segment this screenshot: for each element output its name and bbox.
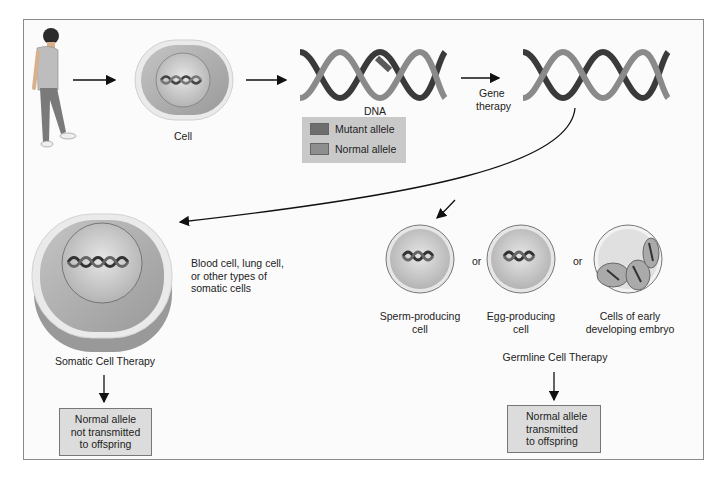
- germline-outcome-line1: Normal allele: [526, 410, 600, 423]
- somatic-title: Somatic Cell Therapy: [40, 355, 170, 368]
- sperm-line2: cell: [375, 323, 465, 336]
- embryo-cells-icon: [594, 225, 662, 293]
- sperm-line1: Sperm-producing: [375, 310, 465, 323]
- sperm-label: Sperm-producing cell: [375, 310, 465, 335]
- somatic-outcome-line2: not transmitted: [60, 426, 151, 439]
- dna-label: DNA: [350, 105, 400, 118]
- legend-label-mutant: Mutant allele: [335, 123, 395, 135]
- somatic-cell-icon: [32, 214, 172, 352]
- germline-outcome-line3: to offspring: [526, 435, 600, 448]
- somatic-outcome-line3: to offspring: [60, 438, 151, 451]
- legend-item-mutant: Mutant allele: [310, 123, 395, 135]
- or-label-1: or: [472, 255, 481, 268]
- somatic-outcome-line1: Normal allele: [60, 413, 151, 426]
- somatic-types-line1: Blood cell, lung cell,: [191, 257, 284, 270]
- dna-helix-icon: [300, 52, 445, 98]
- somatic-types-line2: or other types of: [191, 270, 284, 283]
- germline-outcome-line2: transmitted: [526, 423, 600, 436]
- dna-helix-corrected-icon: [523, 52, 668, 98]
- egg-label: Egg-producing cell: [478, 310, 564, 335]
- germline-outcome-box: Normal allele transmitted to offspring: [507, 405, 601, 453]
- mutant-swatch: [310, 123, 329, 135]
- embryo-label: Cells of early developing embryo: [580, 310, 680, 335]
- egg-producing-cell-icon: [487, 225, 555, 293]
- cell-label: Cell: [163, 130, 203, 143]
- somatic-types-line3: somatic cells: [191, 282, 284, 295]
- legend: Mutant allele Normal allele: [302, 117, 406, 163]
- gene-therapy-label: Gene therapy: [476, 87, 511, 112]
- gene-therapy-line2: therapy: [476, 100, 511, 113]
- legend-label-normal: Normal allele: [335, 143, 396, 155]
- legend-item-normal: Normal allele: [310, 143, 396, 155]
- cell-icon: [135, 40, 233, 120]
- person-icon: [34, 28, 76, 147]
- egg-line1: Egg-producing: [478, 310, 564, 323]
- embryo-line2: developing embryo: [580, 323, 680, 336]
- gene-therapy-line1: Gene: [476, 87, 511, 100]
- germline-title: Germline Cell Therapy: [490, 351, 620, 364]
- embryo-line1: Cells of early: [580, 310, 680, 323]
- egg-line2: cell: [478, 323, 564, 336]
- sperm-producing-cell-icon: [386, 225, 454, 293]
- somatic-types-label: Blood cell, lung cell, or other types of…: [191, 257, 284, 295]
- normal-swatch: [310, 143, 329, 155]
- or-label-2: or: [573, 255, 582, 268]
- somatic-outcome-box: Normal allele not transmitted to offspri…: [59, 408, 152, 456]
